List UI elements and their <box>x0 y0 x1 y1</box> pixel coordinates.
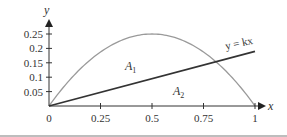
x-tick-label: 0 <box>46 112 52 124</box>
x-tick-label: 0.75 <box>194 112 214 124</box>
y-tick-label: 0.1 <box>29 71 43 83</box>
line-equation-label: y = kx <box>224 34 255 52</box>
bottom-divider <box>0 135 287 137</box>
area-between-curves-chart: 00.250.50.751 0.050.10.150.20.25 x y y =… <box>0 0 287 137</box>
region-a2-label: A2 <box>172 84 184 100</box>
x-tick-label: 0.25 <box>91 112 111 124</box>
y-axis-label: y <box>43 3 50 17</box>
y-tick-label: 0.05 <box>24 86 44 98</box>
region-a1-label: A1 <box>124 59 136 75</box>
line-y-equals-kx <box>49 51 255 106</box>
x-tick-label: 1 <box>252 112 258 124</box>
y-tick-label: 0.15 <box>24 57 44 69</box>
x-axis-label: x <box>267 99 274 113</box>
x-tick-label: 0.5 <box>145 112 159 124</box>
y-axis-ticks: 0.050.10.150.20.25 <box>24 28 52 98</box>
y-tick-label: 0.25 <box>24 28 44 40</box>
y-tick-label: 0.2 <box>29 42 43 54</box>
